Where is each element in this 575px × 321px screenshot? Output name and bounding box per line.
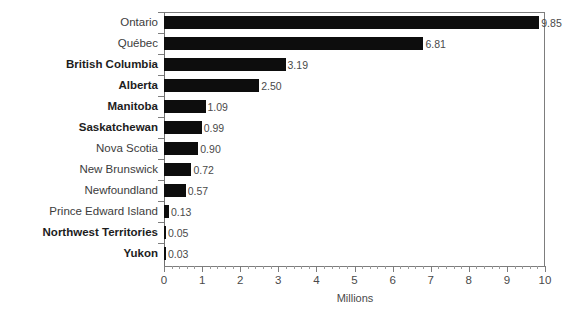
category-label: Manitoba (108, 96, 158, 117)
x-axis-tick-major (393, 266, 394, 272)
bar (164, 37, 423, 50)
x-axis-tick-minor (362, 266, 363, 269)
bar-row: Newfoundland0.57 (0, 180, 575, 201)
bar-row: Saskatchewan0.99 (0, 117, 575, 138)
bar-value-label: 0.05 (166, 222, 188, 243)
category-label: Yukon (123, 243, 158, 264)
x-axis-tick-minor (377, 266, 378, 269)
x-axis-tick-label: 2 (225, 274, 255, 286)
y-axis-tick (158, 96, 164, 97)
x-axis-tick-minor (233, 266, 234, 269)
x-axis-tick-major (202, 266, 203, 272)
x-axis-tick-major (164, 266, 165, 272)
x-axis-tick-minor (179, 266, 180, 269)
x-axis-tick-minor (263, 266, 264, 269)
x-axis-tick-minor (332, 266, 333, 269)
bar (164, 100, 206, 113)
category-label: British Columbia (66, 54, 158, 75)
bar-row: New Brunswick0.72 (0, 159, 575, 180)
x-axis-tick-minor (172, 266, 173, 269)
bar-value-label: 0.90 (198, 138, 220, 159)
x-axis-tick-minor (408, 266, 409, 269)
y-axis-tick (158, 33, 164, 34)
x-axis-tick-label: 3 (263, 274, 293, 286)
x-axis-tick-minor (339, 266, 340, 269)
x-axis-tick-minor (537, 266, 538, 269)
category-label: Saskatchewan (79, 117, 158, 138)
bar-row: Yukon0.03 (0, 243, 575, 264)
bar-value-label: 0.03 (166, 243, 188, 264)
bar (164, 184, 186, 197)
bar-value-label: 0.57 (186, 180, 208, 201)
x-axis-tick-minor (400, 266, 401, 269)
x-axis-tick-minor (187, 266, 188, 269)
bar (164, 121, 202, 134)
x-axis-tick-major (431, 266, 432, 272)
bar-value-label: 1.09 (206, 96, 228, 117)
bar-row: Nova Scotia0.90 (0, 138, 575, 159)
x-axis-tick-label: 7 (416, 274, 446, 286)
x-axis-tick-label: 6 (378, 274, 408, 286)
bar-row: Ontario9.85 (0, 12, 575, 33)
x-axis-tick-minor (294, 266, 295, 269)
x-axis-tick-minor (499, 266, 500, 269)
bar (164, 58, 286, 71)
bar-value-label: 2.50 (259, 75, 281, 96)
x-axis-tick-major (469, 266, 470, 272)
y-axis-tick (158, 159, 164, 160)
x-axis-tick-minor (309, 266, 310, 269)
y-axis-tick (158, 180, 164, 181)
y-axis-tick (158, 201, 164, 202)
bar-row: Alberta2.50 (0, 75, 575, 96)
y-axis-tick (158, 12, 164, 13)
y-axis-tick (158, 222, 164, 223)
bar-value-label: 0.13 (169, 201, 191, 222)
category-label: Québec (118, 33, 158, 54)
x-axis-tick-minor (415, 266, 416, 269)
bar-row: British Columbia3.19 (0, 54, 575, 75)
x-axis-tick-major (355, 266, 356, 272)
x-axis-tick-minor (492, 266, 493, 269)
y-axis-tick (158, 117, 164, 118)
x-axis-tick-minor (301, 266, 302, 269)
category-label: Newfoundland (84, 180, 158, 201)
x-axis-tick-minor (515, 266, 516, 269)
x-axis-tick-minor (385, 266, 386, 269)
x-axis-tick-label: 8 (454, 274, 484, 286)
y-axis-tick (158, 54, 164, 55)
bar-value-label: 6.81 (423, 33, 445, 54)
x-axis-tick-major (545, 266, 546, 272)
x-axis-tick-major (278, 266, 279, 272)
x-axis-tick-label: 10 (530, 274, 560, 286)
x-axis-tick-minor (438, 266, 439, 269)
x-axis-tick-minor (476, 266, 477, 269)
category-label: Prince Edward Island (49, 201, 158, 222)
category-label: Nova Scotia (96, 138, 158, 159)
category-label: Ontario (120, 12, 158, 33)
x-axis-tick-minor (522, 266, 523, 269)
bar-row: Prince Edward Island0.13 (0, 201, 575, 222)
bar (164, 79, 259, 92)
x-axis-tick-minor (484, 266, 485, 269)
x-axis-tick-minor (286, 266, 287, 269)
category-label: Alberta (118, 75, 158, 96)
bar-value-label: 0.72 (191, 159, 213, 180)
x-axis-tick-minor (454, 266, 455, 269)
x-axis-title: Millions (164, 292, 546, 304)
x-axis-tick-minor (255, 266, 256, 269)
x-axis-tick-minor (217, 266, 218, 269)
x-axis-tick-major (240, 266, 241, 272)
bar (164, 16, 539, 29)
y-axis-tick (158, 243, 164, 244)
x-axis-tick-minor (370, 266, 371, 269)
x-axis-tick-minor (225, 266, 226, 269)
x-axis-tick-minor (423, 266, 424, 269)
y-axis-tick (158, 138, 164, 139)
bar-value-label: 0.99 (202, 117, 224, 138)
x-axis-tick-minor (461, 266, 462, 269)
x-axis-tick-minor (324, 266, 325, 269)
x-axis-tick-minor (347, 266, 348, 269)
bar-row: Manitoba1.09 (0, 96, 575, 117)
x-axis-tick-label: 0 (149, 274, 179, 286)
bar (164, 163, 191, 176)
